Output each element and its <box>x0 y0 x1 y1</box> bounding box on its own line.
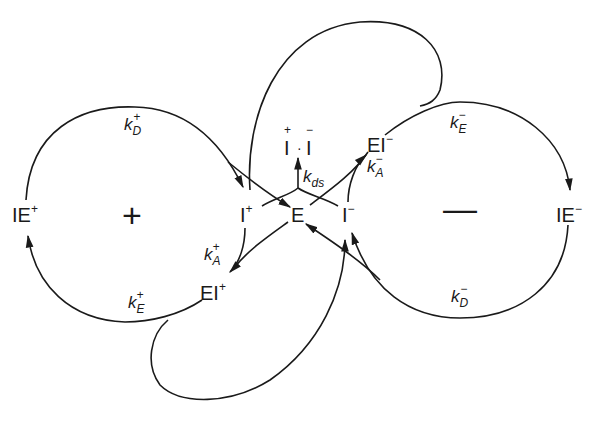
reaction-cycle-diagram: + — IE+ I+ E I− EI+ EI− IE− I + · I − kD… <box>0 0 606 423</box>
svg-text:I: I <box>284 137 290 159</box>
arc-kA-plus <box>230 228 245 272</box>
species-IE-plus: IE+ <box>12 202 38 226</box>
rate-kA-plus: kA+ <box>204 240 221 268</box>
species-I-minus: I− <box>342 202 355 226</box>
lower-lobe <box>151 240 345 399</box>
rate-kds: kds <box>303 167 324 190</box>
center-branch <box>262 158 338 206</box>
svg-text:+: + <box>284 123 291 137</box>
arc-kE-plus <box>28 236 202 322</box>
upper-lobe <box>249 22 441 190</box>
line-kDplus-through-E <box>228 162 290 207</box>
negative-sign: — <box>443 189 477 227</box>
line-kDminus-through-E <box>306 224 380 280</box>
rate-kD-minus: kD− <box>451 282 469 310</box>
species-IE-minus: IE− <box>556 202 582 226</box>
svg-text:I: I <box>306 137 312 159</box>
positive-sign: + <box>122 196 142 234</box>
rate-kD-plus: kD+ <box>124 110 142 138</box>
species-I-plus: I+ <box>240 202 253 226</box>
species-ion-pair: I + · I − <box>284 123 313 159</box>
arc-kA-minus <box>348 155 366 202</box>
arc-E-to-EI-plus <box>234 222 288 268</box>
species-EI-plus: EI+ <box>200 280 226 304</box>
svg-text:·: · <box>297 140 302 156</box>
rate-kE-plus: kE+ <box>128 288 146 316</box>
svg-text:−: − <box>306 123 313 137</box>
arc-kE-minus <box>385 102 570 190</box>
rate-kE-minus: kE− <box>450 108 468 136</box>
species-E: E <box>291 204 304 226</box>
rate-kA-minus: kA− <box>367 152 384 180</box>
